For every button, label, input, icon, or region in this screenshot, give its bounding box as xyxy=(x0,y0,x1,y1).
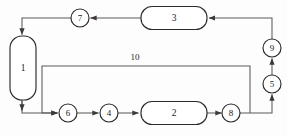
node-3-label: 3 xyxy=(172,13,177,23)
node-8-label: 8 xyxy=(229,108,234,118)
node-9-label: 9 xyxy=(270,43,275,53)
node-1-label: 1 xyxy=(21,63,26,73)
node-5-label: 5 xyxy=(270,79,275,89)
edge-7-to-1 xyxy=(22,18,71,35)
edge-8-to-5 xyxy=(240,95,272,114)
edge-1-to-6 xyxy=(22,100,58,113)
node-4-label: 4 xyxy=(107,108,112,118)
diagram-canvas: 1 3 2 7 9 5 6 4 8 10 xyxy=(0,0,287,136)
process-flow-diagram: 1 3 2 7 9 5 6 4 8 10 xyxy=(0,0,287,136)
node-7-label: 7 xyxy=(78,13,83,23)
node-2-label: 2 xyxy=(172,108,177,118)
edge-9-to-3 xyxy=(209,18,272,39)
node-6-label: 6 xyxy=(66,108,71,118)
edge-label-stream-10: 10 xyxy=(131,52,141,62)
